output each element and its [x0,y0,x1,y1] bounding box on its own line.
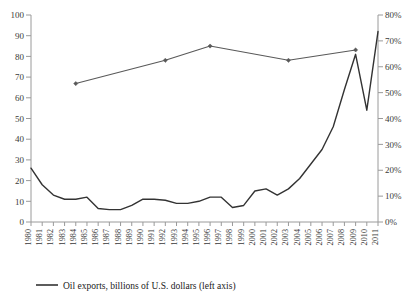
series-marker-1 [354,48,358,52]
x-tick-label: 1999 [237,229,246,245]
x-tick-label: 2003 [281,229,290,245]
series-marker-1 [208,44,212,48]
left-axis-ticks: 0102030405060708090100 [11,10,32,227]
x-tick-label: 1993 [170,229,179,245]
legend: Oil exports, billions of U.S. dollars (l… [36,281,236,292]
right-tick-label: 80% [385,10,402,20]
left-tick-label: 10 [15,197,25,207]
left-tick-label: 100 [11,10,25,20]
x-tick-label: 2008 [337,229,346,245]
right-tick-label: 40% [385,114,402,124]
x-tick-label: 2002 [270,229,279,245]
x-tick-label: 2009 [349,229,358,245]
right-tick-label: 20% [385,165,402,175]
chart-container: 0102030405060708090100 0%10%20%30%40%50%… [0,0,407,293]
series-marker-1 [74,81,78,85]
right-tick-label: 70% [385,36,402,46]
x-tick-label: 1989 [125,229,134,245]
left-tick-label: 50 [15,114,25,124]
x-tick-label: 1986 [91,229,100,245]
x-tick-label: 1991 [147,229,156,245]
x-tick-label: 2000 [248,229,257,245]
left-tick-label: 70 [15,72,25,82]
x-tick-label: 2005 [304,229,313,245]
right-tick-label: 0% [385,217,398,227]
left-tick-label: 60 [15,93,25,103]
left-tick-label: 80 [15,52,25,62]
x-tick-label: 1982 [46,229,55,245]
series-line-1 [76,46,356,84]
axes-group [31,15,378,222]
right-tick-label: 60% [385,62,402,72]
x-tick-label: 1983 [58,229,67,245]
right-tick-label: 50% [385,88,402,98]
right-tick-label: 10% [385,191,402,201]
x-tick-label: 1988 [114,229,123,245]
legend-label-oil-exports: Oil exports, billions of U.S. dollars (l… [63,281,236,292]
x-tick-label: 1998 [225,229,234,245]
series-line-0 [31,32,378,210]
x-tick-label: 1984 [69,229,78,245]
left-tick-label: 30 [15,155,25,165]
x-tick-label: 2006 [315,229,324,245]
x-tick-label: 1990 [136,229,145,245]
x-tick-label: 2007 [326,229,335,245]
right-tick-label: 30% [385,140,402,150]
data-series-group [31,32,378,210]
x-tick-label: 1997 [214,229,223,245]
x-tick-label: 2004 [293,229,302,245]
left-tick-label: 0 [20,217,25,227]
left-tick-label: 20 [15,176,25,186]
x-axis-ticks: 1980198119821983198419851986198719881989… [24,222,380,245]
x-tick-label: 2001 [259,229,268,245]
series-marker-1 [163,58,167,62]
left-tick-label: 40 [15,134,25,144]
series-marker-1 [286,58,290,62]
x-tick-label: 1981 [35,229,44,245]
x-tick-label: 1985 [80,229,89,245]
left-tick-label: 90 [15,31,25,41]
x-tick-label: 1994 [181,229,190,245]
x-tick-label: 2010 [360,229,369,245]
x-tick-label: 1995 [192,229,201,245]
line-chart: 0102030405060708090100 0%10%20%30%40%50%… [0,0,407,293]
right-axis-ticks: 0%10%20%30%40%50%60%70%80% [378,10,402,227]
x-tick-label: 1987 [102,229,111,245]
x-tick-label: 1996 [203,229,212,245]
x-tick-label: 2011 [371,229,380,245]
x-tick-label: 1992 [158,229,167,245]
x-tick-label: 1980 [24,229,33,245]
